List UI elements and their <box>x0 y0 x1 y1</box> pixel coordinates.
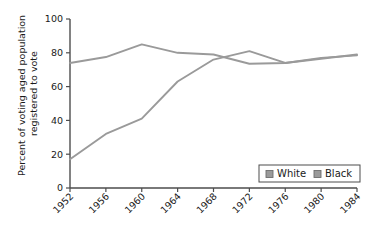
y-axis-label-line-1: Percent of voting aged population <box>16 15 27 176</box>
y-tick-label: 0 <box>57 182 63 193</box>
legend-swatch-black <box>314 171 321 178</box>
legend-label-black: Black <box>325 168 352 179</box>
y-tick-label: 60 <box>51 81 63 92</box>
line-chart: 020406080100 195219561960196419681972197… <box>0 0 376 238</box>
y-tick-label: 80 <box>51 47 63 58</box>
chart-figure: 020406080100 195219561960196419681972197… <box>0 0 376 238</box>
chart-legend[interactable]: WhiteBlack <box>259 165 360 182</box>
y-tick-label: 40 <box>51 115 63 126</box>
y-tick-label: 20 <box>51 149 63 160</box>
legend-label-white: White <box>277 168 306 179</box>
y-tick-label: 100 <box>45 13 63 24</box>
legend-swatch-white <box>266 171 273 178</box>
y-axis-label-line-2: registered to vote <box>28 51 39 136</box>
